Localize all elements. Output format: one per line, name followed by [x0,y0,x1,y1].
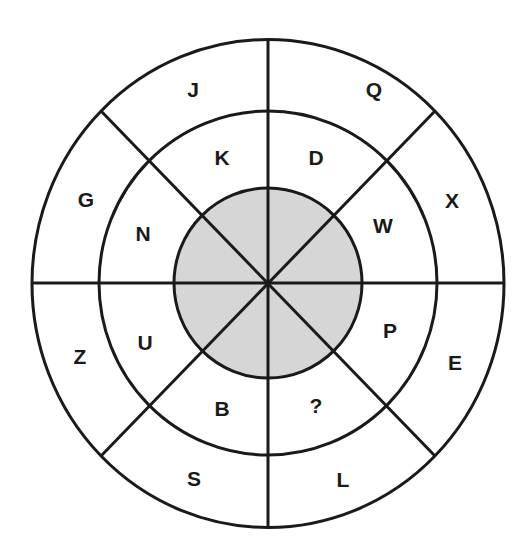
letter-z: Z [74,345,87,368]
letter-e: E [448,351,462,374]
letter-q: Q [366,78,382,101]
letter-j: J [187,78,199,101]
letter-g: G [78,188,94,211]
letter-s: S [187,467,201,490]
letter-l: L [337,468,350,491]
letter-u: U [137,331,152,354]
letter-p: P [383,319,397,342]
missing-letter: ? [310,394,323,417]
letter-k: K [214,146,229,169]
letter-b: B [214,397,229,420]
letter-d: D [308,146,323,169]
letter-w: W [373,214,393,237]
circle-puzzle-diagram: J Q X E L S Z G K D W P ? B U N [0,0,528,554]
letter-x: X [445,189,459,212]
letter-n: N [135,222,150,245]
